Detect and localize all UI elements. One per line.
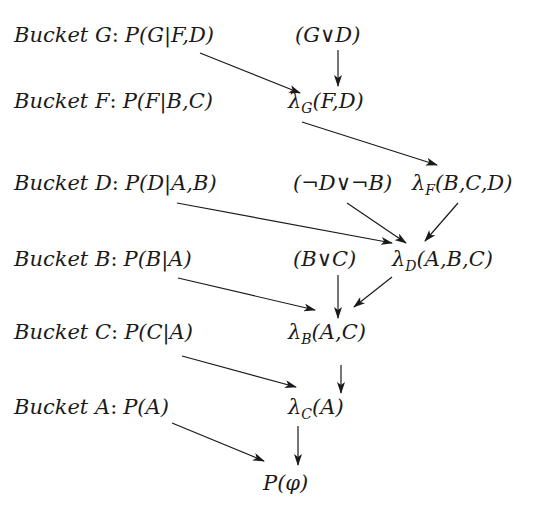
bucket-b-label: Bucket B:P(B|A) [13, 247, 192, 272]
bucket-row-f: Bucket F:P(F|B,C) λG(F,D) [13, 89, 364, 116]
constraint-b-or-c: (B∨C) [293, 247, 356, 271]
arrow-lambda-d-to-lambda-b [354, 277, 392, 307]
cpt-b: P(B|A) [123, 247, 192, 272]
arrow-cpt-c-to-lambda-c [182, 356, 296, 387]
bucket-row-d: Bucket D:P(D|A,B) (¬D∨¬B) λF(B,C,D) [13, 171, 512, 198]
cpt-d: P(D|A,B) [124, 171, 217, 196]
lambda-g: λG(F,D) [287, 89, 364, 116]
arrow-cpt-b-to-lambda-b [178, 278, 315, 310]
cpt-f: P(F|B,C) [122, 89, 213, 114]
bucket-row-g: Bucket G:P(G|F,D) (G∨D) [13, 23, 360, 48]
bucket-a-label: Bucket A:P(A) [13, 395, 169, 419]
lambda-d: λD(A,B,C) [391, 247, 493, 274]
arrow-constraint-d-to-lambda-d [347, 203, 406, 243]
bucket-d-label: Bucket D:P(D|A,B) [13, 171, 217, 196]
lambda-c: λC(A) [287, 395, 344, 422]
bucket-row-b: Bucket B:P(B|A) (B∨C) λD(A,B,C) [13, 247, 493, 274]
result-p-phi: P(φ) [262, 471, 308, 495]
constraint-not-d-or-not-b: (¬D∨¬B) [293, 171, 392, 195]
bucket-f-label: Bucket F:P(F|B,C) [13, 89, 213, 114]
arrow-cpt-a-to-result [172, 423, 264, 461]
arrow-cpt-d-to-lambda-d [177, 203, 392, 243]
cpt-a: P(A) [122, 395, 169, 419]
arrow-lambda-f-to-lambda-d [425, 203, 458, 241]
cpt-c: P(C|A) [123, 320, 193, 345]
bucket-c-label: Bucket C:P(C|A) [13, 320, 193, 345]
bucket-row-c: Bucket C:P(C|A) λB(A,C) [13, 320, 366, 347]
arrow-lambda-g-to-lambda-f [302, 122, 437, 165]
bucket-g-label: Bucket G:P(G|F,D) [13, 23, 214, 48]
lambda-b: λB(A,C) [287, 320, 366, 347]
constraint-g-or-d: (G∨D) [295, 23, 360, 47]
cpt-g: P(G|F,D) [124, 23, 214, 48]
arrow-cpt-g-to-lambda-g [200, 53, 300, 93]
lambda-f: λF(B,C,D) [411, 171, 512, 198]
bucket-elimination-diagram: Bucket G:P(G|F,D) (G∨D) Bucket F:P(F|B,C… [0, 0, 548, 511]
bucket-row-a: Bucket A:P(A) λC(A) [13, 395, 344, 422]
